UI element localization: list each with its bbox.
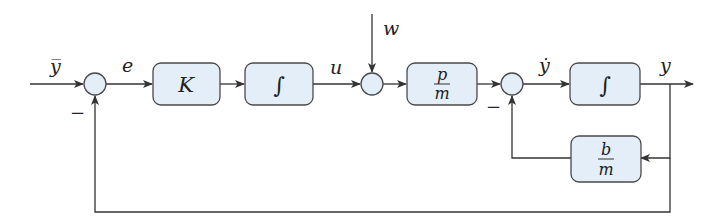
damping-feedback-in-wire [641, 84, 670, 158]
error-label: e [122, 54, 133, 76]
block-diagram: K ∫ p m ∫ b m y̅ e u w ẏ y − − [0, 0, 725, 223]
damping-feedback-out-wire [512, 96, 571, 158]
integrator-1-label: ∫ [273, 73, 285, 98]
output-label: y [659, 54, 671, 76]
damping-numerator: b [601, 140, 611, 159]
damping-denominator: m [598, 160, 613, 179]
plant-gain-numerator: p [437, 65, 447, 84]
disturbance-label: w [383, 17, 399, 39]
integrator-2-label: ∫ [599, 73, 611, 98]
control-label: u [330, 56, 342, 78]
reference-label: y̅ [49, 55, 61, 77]
summing-junction-3 [501, 73, 523, 95]
summing-junction-2 [361, 73, 383, 95]
plant-gain-denominator: m [434, 84, 449, 103]
sum3-negative-sign: − [486, 96, 501, 117]
velocity-label: ẏ [538, 54, 550, 76]
summing-junction-1 [84, 73, 106, 95]
sum1-negative-sign: − [70, 102, 85, 123]
gain-label: K [177, 73, 195, 97]
